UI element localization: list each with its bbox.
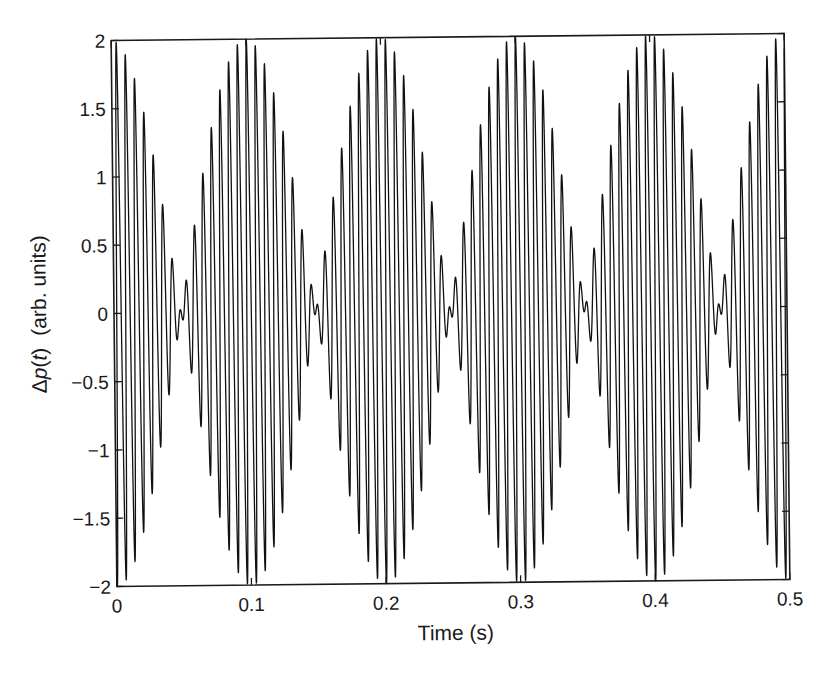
y-tick-label: −1.5 xyxy=(73,508,111,529)
y-axis-label: Δp(t)(arb. units) xyxy=(26,235,51,393)
y-tick-label: 0 xyxy=(97,304,108,325)
x-axis-label: Time (s) xyxy=(418,621,494,645)
plot-area: 21.510.50−0.5−1−1.5−2 00.10.20.30.40.5 xyxy=(68,23,804,617)
y-axis-label-delta: Δ xyxy=(28,379,51,393)
x-tick-label: 0.5 xyxy=(777,588,804,609)
y-tick-label: 1 xyxy=(96,167,107,188)
y-tick-label: −1 xyxy=(88,440,110,461)
x-tick-label: 0.3 xyxy=(508,591,535,612)
y-tick-label: 2 xyxy=(94,31,105,52)
y-tick-label: 1.5 xyxy=(79,99,106,120)
x-tick-label: 0.1 xyxy=(238,594,265,615)
y-tick-label: 0.5 xyxy=(81,235,108,256)
x-tick-label: 0.4 xyxy=(642,590,669,611)
x-tick-label: 0.2 xyxy=(373,593,400,614)
y-tick-label: −2 xyxy=(89,577,111,598)
waveform-line xyxy=(111,34,790,587)
y-tick-label: −0.5 xyxy=(71,372,109,393)
y-axis-label-units: (arb. units) xyxy=(26,235,50,336)
x-tick-label: 0 xyxy=(112,595,123,616)
y-axis-label-var: p xyxy=(28,367,51,380)
beat-waveform-chart: 21.510.50−0.5−1−1.5−2 00.10.20.30.40.5 T… xyxy=(0,0,824,674)
